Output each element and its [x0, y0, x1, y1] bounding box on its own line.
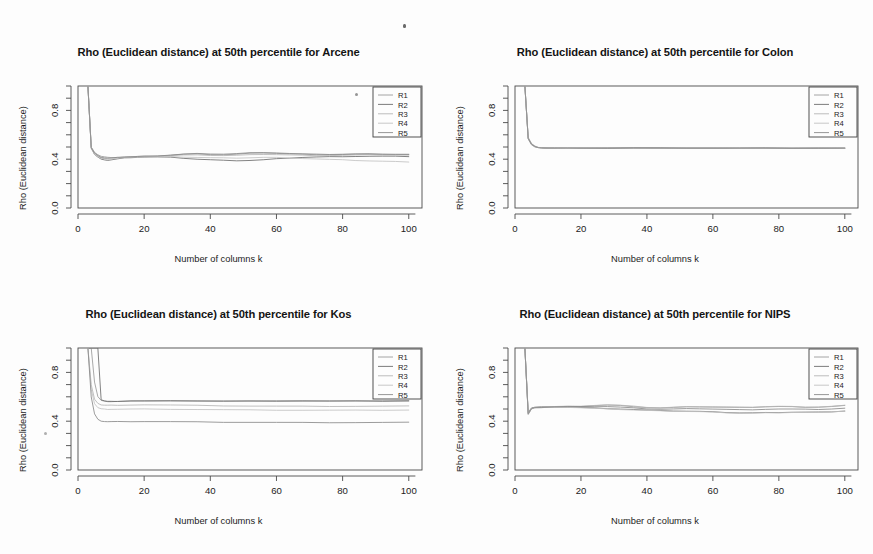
- legend-label-r1: R1: [398, 353, 408, 362]
- series-line-r4: [88, 86, 409, 162]
- x-tick-label: 60: [271, 223, 282, 234]
- x-tick-label: 0: [512, 485, 517, 496]
- series-group: [525, 348, 845, 415]
- x-tick-label: 0: [512, 223, 517, 234]
- legend-label-r5: R5: [398, 129, 408, 138]
- series-line-r5: [525, 86, 845, 148]
- series-group: [525, 86, 845, 149]
- x-tick-label: 20: [139, 485, 150, 496]
- y-tick-label: 0.4: [486, 414, 497, 428]
- x-tick-label: 60: [708, 223, 719, 234]
- x-tick-label: 60: [708, 485, 719, 496]
- panel-arcene: Rho (Euclidean distance) at 50th percent…: [0, 30, 437, 292]
- y-tick-label: 0.8: [49, 366, 60, 379]
- series-line-r1: [88, 86, 409, 158]
- legend-label-r5: R5: [834, 129, 844, 138]
- legend-label-r3: R3: [834, 110, 844, 119]
- y-tick-label: 0.0: [49, 201, 60, 214]
- legend-label-r4: R4: [398, 119, 408, 128]
- x-tick-label: 20: [576, 485, 587, 496]
- legend-colon: R1R2R3R4R5: [809, 87, 857, 138]
- legend-label-r3: R3: [834, 372, 844, 381]
- series-line-r1: [525, 86, 845, 148]
- series-line-r1: [525, 348, 845, 415]
- series-line-r3: [525, 86, 845, 148]
- y-tick-label: 0.4: [49, 152, 60, 166]
- legend-label-r2: R2: [834, 363, 844, 372]
- series-group: [88, 348, 409, 423]
- series-line-r2: [525, 86, 845, 149]
- legend-label-r4: R4: [834, 381, 844, 390]
- panel-nips: Rho (Euclidean distance) at 50th percent…: [437, 292, 873, 554]
- series-line-r4: [525, 348, 845, 413]
- legend-nips: R1R2R3R4R5: [809, 349, 857, 400]
- legend-kos: R1R2R3R4R5: [373, 349, 421, 400]
- y-tick-label: 0.0: [486, 201, 497, 214]
- scan-speck: [355, 93, 358, 96]
- legend-label-r1: R1: [398, 91, 408, 100]
- legend-label-r4: R4: [834, 119, 844, 128]
- plot-area-colon: 0204060801000.00.40.8R1R2R3R4R5: [437, 30, 873, 292]
- plot-area-kos: 0204060801000.00.40.8R1R2R3R4R5: [0, 292, 437, 554]
- legend-label-r3: R3: [398, 110, 408, 119]
- legend-label-r2: R2: [834, 101, 844, 110]
- panel-kos: Rho (Euclidean distance) at 50th percent…: [0, 292, 437, 554]
- x-tick-label: 80: [337, 223, 348, 234]
- series-line-r3: [88, 348, 409, 406]
- x-tick-label: 80: [774, 223, 785, 234]
- legend-label-r4: R4: [398, 381, 408, 390]
- x-tick-label: 20: [576, 223, 587, 234]
- x-tick-label: 80: [774, 485, 785, 496]
- plot-area-nips: 0204060801000.00.40.8R1R2R3R4R5: [437, 292, 873, 554]
- series-group: [88, 86, 409, 162]
- y-tick-label: 0.8: [49, 104, 60, 117]
- legend-label-r1: R1: [834, 91, 844, 100]
- legend-label-r1: R1: [834, 353, 844, 362]
- series-line-r5: [88, 86, 409, 158]
- series-line-r1: [88, 348, 409, 402]
- series-line-r4: [525, 86, 845, 148]
- legend-label-r3: R3: [398, 372, 408, 381]
- y-tick-label: 0.8: [486, 366, 497, 379]
- x-tick-label: 100: [837, 485, 853, 496]
- legend-label-r5: R5: [834, 391, 844, 400]
- legend-label-r2: R2: [398, 101, 408, 110]
- y-tick-label: 0.0: [486, 463, 497, 476]
- series-line-r5: [525, 348, 845, 414]
- y-tick-label: 0.0: [49, 463, 60, 476]
- y-tick-label: 0.4: [486, 152, 497, 166]
- x-tick-label: 80: [337, 485, 348, 496]
- x-tick-label: 40: [205, 485, 216, 496]
- x-tick-label: 0: [75, 223, 80, 234]
- x-tick-label: 100: [401, 223, 417, 234]
- x-tick-label: 40: [642, 485, 653, 496]
- series-line-r2: [525, 348, 845, 413]
- x-tick-label: 40: [205, 223, 216, 234]
- x-tick-label: 20: [139, 223, 150, 234]
- x-tick-label: 60: [271, 485, 282, 496]
- series-line-r5: [88, 348, 409, 423]
- series-line-r2: [88, 86, 409, 161]
- series-line-r3: [525, 348, 845, 414]
- figure-grid: Rho (Euclidean distance) at 50th percent…: [0, 0, 873, 554]
- legend-label-r5: R5: [398, 391, 408, 400]
- x-tick-label: 100: [837, 223, 853, 234]
- plot-area-arcene: 0204060801000.00.40.8R1R2R3R4R5: [0, 30, 437, 292]
- y-tick-label: 0.8: [486, 104, 497, 117]
- x-tick-label: 40: [642, 223, 653, 234]
- legend-label-r2: R2: [398, 363, 408, 372]
- scan-artifact-mark: [403, 24, 406, 28]
- legend-arcene: R1R2R3R4R5: [373, 87, 421, 138]
- series-line-r2: [88, 348, 409, 402]
- scan-speck: [44, 432, 47, 435]
- x-tick-label: 0: [75, 485, 80, 496]
- panel-colon: Rho (Euclidean distance) at 50th percent…: [437, 30, 873, 292]
- x-tick-label: 100: [401, 485, 417, 496]
- series-line-r3: [88, 86, 409, 158]
- y-tick-label: 0.4: [49, 414, 60, 428]
